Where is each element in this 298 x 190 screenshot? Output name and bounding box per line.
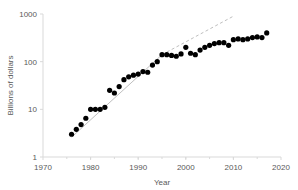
y-axis-tick-label: 1000 xyxy=(19,10,37,19)
data-point xyxy=(112,90,117,95)
data-point xyxy=(264,30,269,35)
data-point xyxy=(207,43,212,48)
data-point xyxy=(155,59,160,64)
y-axis-tick-label: 10 xyxy=(28,105,37,114)
data-point xyxy=(140,69,145,74)
data-point xyxy=(121,77,126,82)
data-point xyxy=(107,88,112,93)
data-point xyxy=(197,47,202,52)
exponential-trend-extrapolation xyxy=(162,16,233,55)
x-axis-tick-label: 1970 xyxy=(34,163,52,172)
y-axis-tick-label: 1 xyxy=(33,153,38,162)
data-point xyxy=(245,36,250,41)
x-axis-tick-label: 1980 xyxy=(82,163,100,172)
x-axis-tick-label: 2020 xyxy=(272,163,290,172)
data-point xyxy=(83,116,88,121)
data-point xyxy=(145,70,150,75)
y-axis-tick-label: 100 xyxy=(24,58,38,67)
x-axis-tick-label: 2000 xyxy=(177,163,195,172)
data-point xyxy=(98,107,103,112)
x-axis-title: Year xyxy=(154,178,171,187)
data-point xyxy=(150,62,155,67)
x-axis-tick-label: 1990 xyxy=(129,163,147,172)
data-point xyxy=(126,74,131,79)
data-point xyxy=(231,37,236,42)
data-point xyxy=(221,40,226,45)
exponential-trend-line xyxy=(72,55,162,138)
data-point xyxy=(136,71,141,76)
data-point xyxy=(178,51,183,56)
data-point xyxy=(202,45,207,50)
data-point xyxy=(93,107,98,112)
data-point xyxy=(255,34,260,39)
data-point xyxy=(212,41,217,46)
data-point xyxy=(131,73,136,78)
data-point xyxy=(188,51,193,56)
data-point xyxy=(226,43,231,48)
data-point xyxy=(159,52,164,57)
data-point xyxy=(102,105,107,110)
data-point xyxy=(250,35,255,40)
data-point xyxy=(74,127,79,132)
data-point xyxy=(183,45,188,50)
data-point xyxy=(88,107,93,112)
data-point xyxy=(69,132,74,137)
chart-container: 1970198019902000201020201101001000YearBi… xyxy=(0,0,298,190)
data-point xyxy=(217,40,222,45)
data-point xyxy=(164,52,169,57)
data-point xyxy=(193,52,198,57)
data-point xyxy=(117,84,122,89)
x-axis-tick-label: 2010 xyxy=(225,163,243,172)
data-point xyxy=(78,122,83,127)
data-point xyxy=(236,36,241,41)
data-point xyxy=(169,53,174,58)
log-scatter-chart: 1970198019902000201020201101001000YearBi… xyxy=(0,0,298,190)
data-point xyxy=(240,37,245,42)
y-axis-title: Billions of dollars xyxy=(6,55,15,115)
data-point xyxy=(259,35,264,40)
data-point xyxy=(174,54,179,59)
